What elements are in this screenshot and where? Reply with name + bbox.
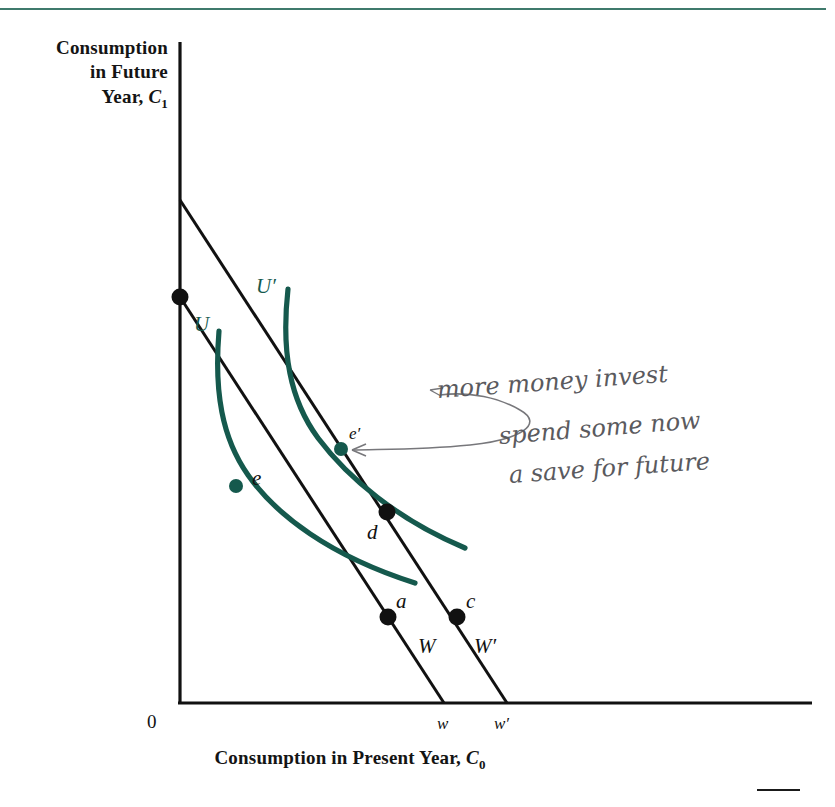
plot-canvas — [0, 0, 835, 807]
point-label-e-prime: e′ — [349, 424, 360, 444]
y-axis-title-line1: Consumption — [56, 37, 168, 58]
point-label-c: c — [466, 589, 475, 614]
y-axis-title: Consumptionin FutureYear, C1 — [18, 36, 168, 112]
figure-container: Consumptionin FutureYear, C1 Consumption… — [0, 0, 835, 807]
point-label-d: d — [367, 520, 378, 545]
point-label-e: e — [252, 466, 261, 491]
indifference-curve-U — [218, 331, 415, 583]
curve-label-U: U — [194, 312, 209, 337]
point-y-intercept-W — [172, 289, 189, 306]
y-axis-title-line3: Year, — [101, 86, 148, 107]
y-axis-title-line2: in Future — [90, 61, 168, 82]
tick-label-w-prime: w′ — [494, 714, 509, 734]
tick-label-w: w — [437, 714, 448, 734]
x-axis-subscript: 0 — [479, 757, 486, 772]
curve-label-U-prime: U′ — [256, 274, 276, 299]
tick-label-origin: 0 — [147, 711, 157, 733]
y-axis-symbol: C — [148, 86, 161, 107]
point-label-a: a — [396, 589, 407, 614]
x-axis-title: Consumption in Present Year, C0 — [0, 746, 700, 773]
budget-line-label-W: W — [418, 634, 436, 659]
y-axis-subscript: 1 — [161, 95, 168, 110]
point-d — [379, 504, 396, 521]
point-e — [229, 479, 243, 493]
budget-line-label-W-prime: W′ — [474, 634, 496, 659]
x-axis-title-text: Consumption in Present Year, — [214, 747, 466, 768]
indifference-curve-U-prime — [286, 289, 465, 548]
point-c — [449, 609, 466, 626]
point-e-prime — [334, 442, 348, 456]
point-a — [380, 609, 397, 626]
x-axis-symbol: C — [466, 747, 479, 768]
